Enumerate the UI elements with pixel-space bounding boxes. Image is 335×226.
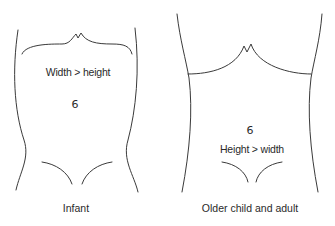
adult-torso-outline-icon <box>0 0 335 226</box>
adult-navel-marker: 6 <box>247 124 254 137</box>
abdomen-shape-diagram: Width > height 6 Infant 6 Height > width… <box>0 0 335 226</box>
adult-proportion-label: Height > width <box>220 143 284 155</box>
adult-caption: Older child and adult <box>202 202 298 214</box>
